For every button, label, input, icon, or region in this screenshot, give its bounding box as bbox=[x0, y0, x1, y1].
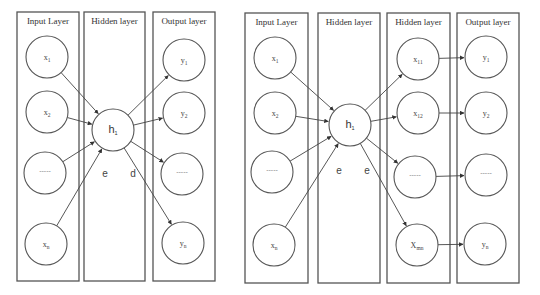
layer-title-hidden2: Hidden layer bbox=[395, 17, 442, 27]
neural-network-diagram: Input LayerHidden layerOutput layerx1x2-… bbox=[0, 0, 540, 295]
layer-title-hidden: Hidden layer bbox=[91, 16, 138, 26]
node-label-xdots: ----- bbox=[266, 166, 278, 173]
single-hidden-layer-network: Input LayerHidden layerOutput layerx1x2-… bbox=[17, 12, 215, 281]
node-label-hdots: ----- bbox=[409, 171, 421, 178]
layer-title-input: Input Layer bbox=[255, 17, 297, 27]
node-label-ydots: ----- bbox=[176, 168, 188, 175]
annotation-e: e bbox=[364, 165, 370, 176]
node-label-xdots: ----- bbox=[39, 167, 51, 174]
layer-title-output: Output layer bbox=[161, 16, 206, 26]
node-label-ydots: ----- bbox=[480, 169, 492, 176]
layer-title-hidden1: Hidden layer bbox=[326, 17, 373, 27]
layer-title-input: Input Layer bbox=[27, 16, 69, 26]
layer-title-output: Output layer bbox=[465, 17, 510, 27]
annotation-d: d bbox=[130, 168, 136, 179]
layer-box-hidden1 bbox=[318, 13, 380, 283]
annotation-e: e bbox=[336, 165, 342, 176]
two-hidden-layer-network: Input LayerHidden layerHidden layerOutpu… bbox=[245, 13, 519, 283]
annotation-e: e bbox=[102, 168, 108, 179]
